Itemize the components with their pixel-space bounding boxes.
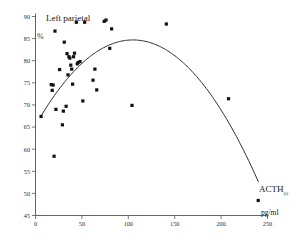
data-point-marker [130,104,133,107]
data-point-marker [70,68,73,71]
fit-curve [41,40,258,182]
x-axis-tick-label: 0 [34,220,37,227]
data-point-marker [81,99,84,102]
plot-area: 45505560657075808590050100150200250 [0,0,307,240]
y-axis-tick-label: 45 [24,212,30,219]
y-axis-tick-label: 85 [24,35,30,42]
y-axis-tick-label: 70 [24,101,30,108]
data-point-marker [62,110,65,113]
x-axis-unit-label: pg/ml [261,209,279,217]
chart-title: Left parietal [46,14,90,23]
data-point-marker [65,52,68,55]
y-axis-tick-label: 50 [24,190,30,197]
data-point-marker [61,123,64,126]
data-point-marker [65,105,68,108]
data-point-marker [54,108,57,111]
data-point-marker [58,68,61,71]
y-axis-unit-label: % [37,33,44,41]
data-point-marker [52,83,55,86]
data-point-marker [73,52,76,55]
data-point-marker [63,41,66,44]
y-axis-tick-label: 60 [24,146,30,153]
y-axis-tick-label: 55 [24,168,30,175]
data-point-marker [53,29,56,32]
data-point-marker [257,199,260,202]
data-point-marker [66,73,69,76]
data-point-marker [227,97,230,100]
data-point-marker [69,64,72,67]
x-axis-variable-label: ACTH(t) [259,185,288,196]
x-axis-tick-label: 250 [263,220,272,227]
x-axis-tick-label: 50 [79,220,85,227]
data-point-marker [78,60,81,63]
x-axis-tick-label: 200 [216,220,225,227]
y-axis-tick-label: 65 [24,123,30,130]
data-point-marker [165,22,168,25]
data-point-marker [51,89,54,92]
x-axis-tick-label: 100 [124,220,133,227]
y-axis-tick-label: 90 [24,13,30,20]
x-axis-variable-name: ACTH [259,184,284,194]
data-point-marker [68,56,71,59]
data-point-marker [72,55,75,58]
data-point-marker [108,47,111,50]
data-point-marker [95,88,98,91]
data-point-marker [110,27,113,30]
data-point-marker [91,79,94,82]
data-point-marker [39,115,42,118]
y-axis-tick-label: 75 [24,79,30,86]
data-point-marker [71,83,74,86]
x-axis-variable-subscript: (t) [284,191,289,196]
data-point-marker [104,18,107,21]
data-point-marker [93,68,96,71]
y-axis-tick-label: 80 [24,57,30,64]
scatter-chart: 45505560657075808590050100150200250 Left… [0,0,307,240]
data-point-marker [52,155,55,158]
x-axis-tick-label: 150 [170,220,179,227]
